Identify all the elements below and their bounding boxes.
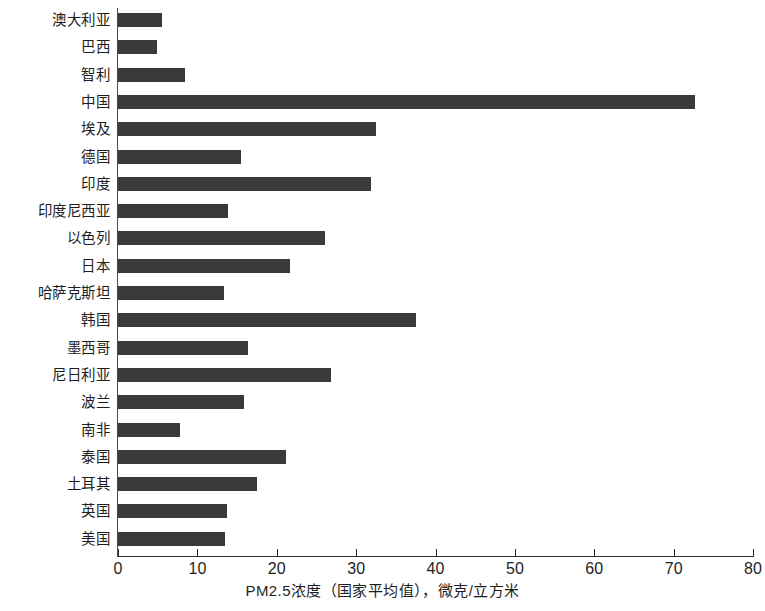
tick-mark <box>753 549 754 557</box>
bar <box>118 204 228 218</box>
bar <box>118 13 162 27</box>
category-label: 波兰 <box>0 394 110 410</box>
tick-mark <box>594 549 595 557</box>
category-label: 韩国 <box>0 312 110 328</box>
bar <box>118 150 241 164</box>
category-label: 印度尼西亚 <box>0 203 110 219</box>
bar <box>118 477 257 491</box>
category-label: 尼日利亚 <box>0 367 110 383</box>
category-label: 土耳其 <box>0 476 110 492</box>
tick-label: 70 <box>665 560 683 578</box>
bar <box>118 368 331 382</box>
category-label: 美国 <box>0 531 110 547</box>
category-label: 巴西 <box>0 39 110 55</box>
category-label: 德国 <box>0 149 110 165</box>
category-label: 埃及 <box>0 121 110 137</box>
category-label: 中国 <box>0 94 110 110</box>
category-label: 哈萨克斯坦 <box>0 285 110 301</box>
bar <box>118 341 248 355</box>
bar <box>118 286 224 300</box>
category-label: 泰国 <box>0 449 110 465</box>
tick-mark <box>197 549 198 557</box>
bar <box>118 504 227 518</box>
bar <box>118 532 225 546</box>
x-axis-title: PM2.5浓度（国家平均值），微克/立方米 <box>0 582 765 600</box>
value-axis-baseline <box>117 8 118 557</box>
bar <box>118 40 157 54</box>
category-label: 印度 <box>0 176 110 192</box>
bar <box>118 177 371 191</box>
bar <box>118 95 695 109</box>
tick-label: 40 <box>427 560 445 578</box>
category-label: 南非 <box>0 422 110 438</box>
bar <box>118 259 290 273</box>
bar <box>118 68 185 82</box>
plot-area <box>118 0 753 556</box>
tick-label: 60 <box>585 560 603 578</box>
bar <box>118 395 244 409</box>
tick-mark <box>118 549 119 557</box>
category-label: 澳大利亚 <box>0 12 110 28</box>
category-label: 墨西哥 <box>0 340 110 356</box>
bar <box>118 450 286 464</box>
bar <box>118 122 376 136</box>
tick-mark <box>674 549 675 557</box>
tick-label: 0 <box>114 560 123 578</box>
category-label: 英国 <box>0 503 110 519</box>
category-label: 日本 <box>0 258 110 274</box>
tick-label: 10 <box>188 560 206 578</box>
tick-mark <box>277 549 278 557</box>
category-label: 以色列 <box>0 230 110 246</box>
bar <box>118 231 325 245</box>
category-axis: 澳大利亚巴西智利中国埃及德国印度印度尼西亚以色列日本哈萨克斯坦韩国墨西哥尼日利亚… <box>0 0 114 556</box>
tick-label: 20 <box>268 560 286 578</box>
tick-mark <box>515 549 516 557</box>
bar <box>118 423 180 437</box>
bar <box>118 313 416 327</box>
tick-label: 80 <box>744 560 762 578</box>
tick-label: 30 <box>347 560 365 578</box>
category-label: 智利 <box>0 67 110 83</box>
tick-mark <box>356 549 357 557</box>
pm25-bar-chart: 澳大利亚巴西智利中国埃及德国印度印度尼西亚以色列日本哈萨克斯坦韩国墨西哥尼日利亚… <box>0 0 765 611</box>
tick-label: 50 <box>506 560 524 578</box>
tick-mark <box>436 549 437 557</box>
